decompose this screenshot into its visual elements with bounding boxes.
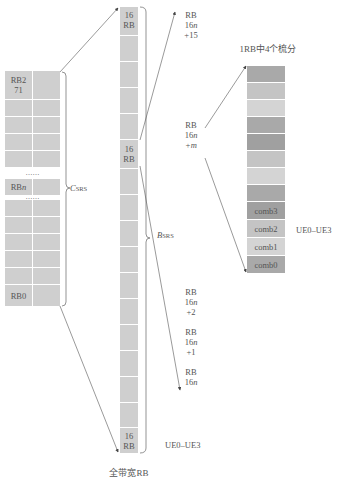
rb-group-cell	[120, 88, 138, 113]
rb-group-cell	[120, 403, 138, 427]
c-srs-label: CSRS	[70, 183, 87, 194]
rb-group-cell	[120, 247, 138, 272]
comb-cell	[247, 100, 285, 116]
comb-cell	[247, 66, 285, 82]
ue-range-label-bottom: UE0–UE3	[165, 440, 200, 450]
rb-271-label: RB271	[5, 75, 32, 95]
rb-group-cell	[120, 114, 138, 139]
rb-cell	[33, 268, 60, 284]
rb-cell	[5, 134, 32, 150]
comb-cell	[247, 168, 285, 184]
rb-16n-plus-1-label: RB 16n +1	[180, 327, 202, 357]
segment-label-top: 16RB	[120, 10, 138, 30]
rb-cell	[33, 200, 60, 216]
rb-cell	[5, 251, 32, 267]
rb-group-cell	[120, 62, 138, 87]
comb-cell	[247, 83, 285, 99]
rb-cell	[5, 268, 32, 284]
b-srs-label: BSRS	[157, 230, 174, 241]
rb-16n-label: RB 16n	[180, 367, 202, 387]
comb-column: comb3 comb2 comb1 comb0	[247, 66, 285, 276]
rb-group-cell	[120, 273, 138, 298]
rb-cell	[5, 100, 32, 116]
full-bandwidth-column: 16RB 16RB 16RB	[120, 7, 138, 453]
comb2-label: comb2	[247, 224, 285, 234]
comb-cell	[247, 185, 285, 201]
rb-16n-plus-15-label: RB 16n +15	[180, 10, 202, 40]
comb-cell	[247, 134, 285, 150]
rb-cell	[33, 151, 60, 167]
rb-cell	[33, 134, 60, 150]
segment-label-bottom: 16RB	[120, 431, 138, 451]
rb-group-cell	[120, 221, 138, 246]
rb-cell	[5, 234, 32, 250]
rb-group-cell	[120, 325, 138, 350]
full-bandwidth-caption: 全带宽RB	[104, 468, 154, 478]
rb-group-cell	[120, 195, 138, 220]
rb-16n-plus-m-label: RB 16n +m	[180, 120, 202, 150]
rb-group-cell	[120, 299, 138, 324]
ue-range-label-comb: UE0–UE3	[296, 225, 331, 235]
rb-group-cell	[120, 377, 138, 402]
comb-cell	[247, 117, 285, 133]
ellipsis-top: ……	[5, 168, 60, 178]
comb0-label: comb0	[247, 260, 285, 270]
rb-group-cell	[120, 351, 138, 376]
rb-cell	[5, 200, 32, 216]
rb-cell	[5, 117, 32, 133]
comb-cell	[247, 151, 285, 167]
rb-group-cell	[120, 169, 138, 194]
comb1-label: comb1	[247, 242, 285, 252]
rb-n-label: RBn	[5, 182, 32, 192]
comb3-label: comb3	[247, 206, 285, 216]
rb-cell	[33, 234, 60, 250]
segment-label-middle: 16RB	[120, 144, 138, 164]
rb-cell	[5, 217, 32, 233]
rb-group-cell	[120, 36, 138, 61]
rb-16n-plus-2-label: RB 16n +2	[180, 287, 202, 317]
rb-cell	[33, 251, 60, 267]
rb-cell	[33, 71, 60, 99]
rb-cell	[33, 117, 60, 133]
rb-cell	[5, 151, 32, 167]
rb-cell	[33, 217, 60, 233]
rb-cell	[33, 285, 60, 306]
rb-cell	[33, 100, 60, 116]
left-rb-block: RB271 …… RBn …… RB0	[5, 71, 60, 306]
rb-0-label: RB0	[5, 291, 32, 301]
comb-column-title: 1RB中4个梳分	[228, 44, 308, 54]
